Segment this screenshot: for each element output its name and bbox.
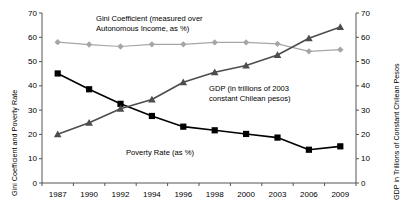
annotation-gdp: GDP (in trillions of 2003 constant Chile… [209, 84, 290, 103]
series-square-1 [55, 70, 344, 152]
x-axis-tick-label: 1987 [49, 190, 67, 199]
left-axis-tick-label: 30 [28, 106, 37, 115]
data-point-diamond [306, 48, 312, 54]
data-point-square [212, 127, 218, 133]
x-axis-tick-label: 1992 [112, 190, 130, 199]
annotation-poverty-line1: Poverty Rate (as %) [126, 148, 194, 158]
left-axis-tick-label: 50 [28, 57, 37, 66]
left-axis-tick-label: 20 [28, 130, 37, 139]
left-axis-tick-label: 70 [28, 9, 37, 18]
data-point-diamond [55, 39, 61, 45]
x-axis-tick-label: 1996 [174, 190, 192, 199]
annotation-poverty-rate: Poverty Rate (as %) [126, 148, 194, 158]
annotation-gini-coefficient: Gini Coefficient (measured over Autonomo… [96, 14, 203, 33]
data-point-diamond [117, 43, 123, 49]
x-axis-tick-label: 2009 [331, 190, 349, 199]
data-point-square [180, 124, 186, 130]
data-point-diamond [274, 41, 280, 47]
left-axis-title: Gini Coefficient and Poverty Rate [10, 90, 19, 196]
x-axis-tick-label: 1998 [206, 190, 224, 199]
right-axis-tick-label: 50 [361, 57, 370, 66]
data-point-triangle [337, 23, 345, 30]
annotation-gini-line2: Autonomous Income, as %) [96, 24, 203, 34]
series-diamond-0 [55, 39, 344, 55]
right-axis-tick-label: 20 [361, 130, 370, 139]
data-point-diamond [243, 39, 249, 45]
annotation-gini-line1: Gini Coefficient (measured over [96, 14, 203, 24]
data-point-square [86, 86, 92, 92]
left-axis-tick-label: 60 [28, 33, 37, 42]
data-point-diamond [86, 41, 92, 47]
data-point-square [337, 143, 343, 149]
right-axis-tick-label: 60 [361, 33, 370, 42]
data-point-square [55, 70, 61, 76]
data-point-triangle [148, 96, 156, 103]
data-point-square [243, 131, 249, 137]
data-point-triangle [274, 51, 282, 58]
data-point-diamond [180, 41, 186, 47]
left-axis-tick-label: 40 [28, 81, 37, 90]
right-axis-tick-label: 70 [361, 9, 370, 18]
right-axis-tick-label: 30 [361, 106, 370, 115]
annotation-gdp-line2: constant Chilean pesos) [209, 94, 290, 104]
series-triangle-2 [54, 23, 344, 137]
data-point-diamond [149, 41, 155, 47]
x-axis-tick-label: 1994 [143, 190, 161, 199]
x-axis-tick-label: 2003 [269, 190, 287, 199]
series-line [58, 73, 341, 149]
data-point-diamond [337, 46, 343, 52]
data-point-square [274, 134, 280, 140]
right-axis-title: GDP in Trillions of Constant Chilean Pes… [392, 64, 401, 201]
right-axis-tick-label: 0 [361, 179, 366, 188]
x-axis-tick-label: 2000 [237, 190, 255, 199]
x-axis-tick-label: 1990 [80, 190, 98, 199]
left-axis-tick-label: 0 [33, 179, 38, 188]
left-axis-tick-label: 10 [28, 154, 37, 163]
right-axis-tick-label: 40 [361, 81, 370, 90]
data-point-square [149, 113, 155, 119]
data-point-diamond [212, 39, 218, 45]
data-point-square [306, 147, 312, 153]
x-axis-tick-label: 2006 [300, 190, 318, 199]
right-axis-tick-label: 10 [361, 154, 370, 163]
annotation-gdp-line1: GDP (in trillions of 2003 [209, 84, 290, 94]
